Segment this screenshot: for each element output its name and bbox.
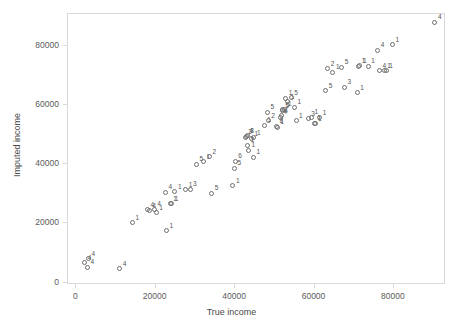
x-tick-label: 0	[73, 291, 78, 301]
x-tick	[393, 284, 394, 288]
x-tick-label: 20000	[143, 291, 167, 301]
y-tick	[63, 222, 67, 223]
scatter-chart: 0200004000060000800000200004000060000800…	[0, 0, 463, 332]
y-tick-label: 20000	[35, 217, 59, 227]
x-tick	[234, 284, 235, 288]
y-tick	[63, 104, 67, 105]
y-tick-label: 40000	[35, 158, 59, 168]
y-tick	[63, 45, 67, 46]
y-tick-label: 0	[54, 277, 59, 287]
x-tick-label: 80000	[381, 291, 405, 301]
x-tick-label: 60000	[302, 291, 326, 301]
x-tick	[75, 284, 76, 288]
y-tick	[63, 163, 67, 164]
x-tick	[155, 284, 156, 288]
y-axis-title: Imputed income	[12, 80, 22, 210]
x-axis-title: True income	[0, 307, 463, 317]
y-tick-label: 60000	[35, 99, 59, 109]
x-tick	[314, 284, 315, 288]
y-tick-label: 80000	[35, 40, 59, 50]
plot-area	[67, 13, 445, 284]
x-tick-label: 40000	[222, 291, 246, 301]
y-tick	[63, 282, 67, 283]
